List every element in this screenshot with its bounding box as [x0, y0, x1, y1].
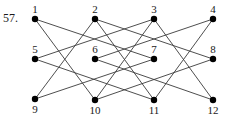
node-label-11: 11 [149, 104, 160, 116]
node-3 [151, 16, 157, 22]
node-2 [92, 16, 98, 22]
node-label-12: 12 [208, 104, 219, 116]
node-label-6: 6 [92, 43, 98, 55]
graph-edges [35, 19, 213, 100]
node-7 [151, 56, 157, 62]
problem-number: 57. [3, 11, 18, 25]
node-12 [210, 97, 216, 103]
node-label-5: 5 [32, 43, 38, 55]
node-label-1: 1 [32, 3, 38, 15]
node-6 [92, 56, 98, 62]
node-1 [32, 16, 38, 22]
graph-node-labels: 123456789101112 [32, 3, 218, 116]
node-label-2: 2 [92, 3, 98, 15]
node-9 [32, 96, 38, 102]
node-label-4: 4 [210, 3, 216, 15]
node-label-8: 8 [210, 43, 216, 55]
node-5 [32, 56, 38, 62]
node-8 [210, 56, 216, 62]
node-10 [92, 97, 98, 103]
node-11 [151, 97, 157, 103]
node-label-9: 9 [32, 103, 38, 115]
node-label-7: 7 [151, 43, 157, 55]
graph-diagram: 57. 123456789101112 [0, 0, 228, 120]
node-label-10: 10 [90, 104, 102, 116]
node-4 [210, 16, 216, 22]
node-label-3: 3 [151, 3, 157, 15]
